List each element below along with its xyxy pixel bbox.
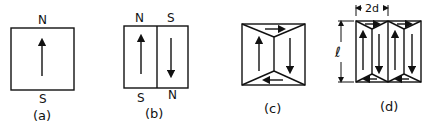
label-b-top-right: S xyxy=(167,12,175,24)
caption-d: (d) xyxy=(380,100,398,113)
panel-d xyxy=(338,5,421,82)
label-b-top-left: N xyxy=(135,12,144,24)
caption-c: (c) xyxy=(264,102,281,115)
domain-diagram xyxy=(0,0,426,131)
label-a-south: S xyxy=(39,93,47,105)
caption-a: (a) xyxy=(33,109,51,122)
panel-b xyxy=(124,26,188,88)
dimension-2d-label: 2d xyxy=(364,3,380,14)
label-b-bottom-right: N xyxy=(168,89,177,101)
label-a-north: N xyxy=(38,14,47,26)
caption-b-text: (b) xyxy=(145,107,163,120)
dimension-l-label: ℓ xyxy=(335,45,341,59)
panel-c xyxy=(242,24,305,85)
panel-a xyxy=(11,28,74,90)
label-b-bottom-left: S xyxy=(137,92,145,104)
